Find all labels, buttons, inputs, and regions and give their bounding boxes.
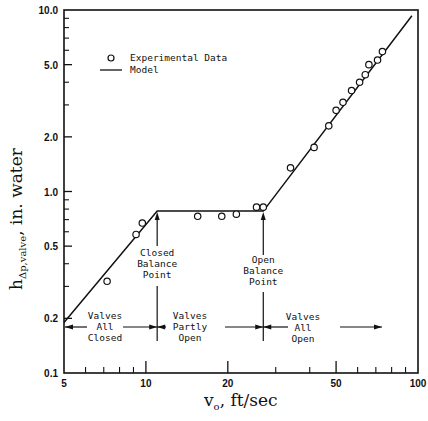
data-point bbox=[260, 204, 266, 210]
data-point bbox=[362, 72, 368, 78]
y-tick-label: 5.0 bbox=[44, 60, 58, 71]
data-point bbox=[253, 204, 259, 210]
y-tick-label: 10.0 bbox=[39, 5, 59, 16]
y-tick-label: 2.0 bbox=[44, 132, 58, 143]
x-axis-ticks: 5102050100 bbox=[61, 361, 427, 389]
data-point bbox=[133, 231, 139, 237]
y-axis-title: hΔp,valve, in. water bbox=[6, 147, 28, 290]
data-point bbox=[340, 99, 346, 105]
log-log-chart: 0.10.20.51.02.05.010.0 5102050100 Experi… bbox=[0, 0, 428, 421]
data-point bbox=[139, 220, 145, 226]
data-point bbox=[233, 211, 239, 217]
legend: Experimental Data Model bbox=[100, 52, 227, 75]
x-tick-label: 50 bbox=[331, 378, 343, 389]
x-axis-title: vo, ft/sec bbox=[203, 390, 278, 412]
y-tick-label: 0.1 bbox=[44, 368, 58, 379]
valves-partly-open-label: ValvesPartlyOpen bbox=[173, 310, 208, 343]
data-point bbox=[311, 144, 317, 150]
x-tick-label: 5 bbox=[61, 378, 67, 389]
data-point bbox=[287, 165, 293, 171]
valves-all-closed-label: ValvesAllClosed bbox=[88, 310, 122, 343]
data-point bbox=[366, 61, 372, 67]
data-point bbox=[194, 213, 200, 219]
legend-circle-marker-icon bbox=[108, 55, 114, 61]
data-point bbox=[333, 107, 339, 113]
data-point bbox=[379, 48, 385, 54]
model-line bbox=[64, 16, 412, 323]
data-point bbox=[348, 87, 354, 93]
data-point bbox=[104, 278, 110, 284]
y-axis-ticks: 0.10.20.51.02.05.010.0 bbox=[39, 5, 72, 379]
data-point bbox=[219, 213, 225, 219]
x-tick-label: 100 bbox=[410, 378, 427, 389]
y-tick-label: 1.0 bbox=[44, 187, 58, 198]
data-point bbox=[326, 123, 332, 129]
x-tick-label: 20 bbox=[222, 378, 234, 389]
x-tick-label: 10 bbox=[140, 378, 152, 389]
data-point bbox=[374, 57, 380, 63]
closed-balance-point-label: ClosedBalancePoint bbox=[137, 247, 177, 280]
open-balance-point-label: OpenBalancePoint bbox=[243, 254, 283, 287]
legend-label-model: Model bbox=[130, 64, 159, 75]
valves-all-open-label: ValvesAllOpen bbox=[286, 311, 320, 344]
data-point bbox=[356, 79, 362, 85]
y-tick-label: 0.5 bbox=[44, 241, 58, 252]
legend-label-data: Experimental Data bbox=[130, 52, 227, 63]
y-tick-label: 0.2 bbox=[44, 313, 58, 324]
annotations: ClosedBalancePointOpenBalancePointValves… bbox=[65, 212, 382, 344]
